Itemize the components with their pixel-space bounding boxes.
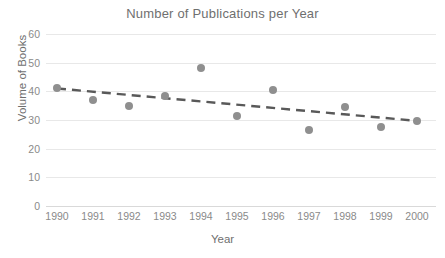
data-point[interactable] <box>89 96 97 104</box>
y-axis-tick-label: 10 <box>6 171 40 183</box>
chart-title: Number of Publications per Year <box>0 6 445 21</box>
x-axis-tick-label: 1990 <box>45 210 68 222</box>
x-axis-tick-labels: 1990199119921993199419951996199719981999… <box>0 210 445 228</box>
data-point[interactable] <box>269 86 277 94</box>
y-axis-title: Volume of Books <box>16 18 28 138</box>
plot-area <box>46 34 436 206</box>
data-point[interactable] <box>377 123 385 131</box>
x-axis-tick-label: 1992 <box>117 210 140 222</box>
x-axis-baseline <box>46 206 436 207</box>
data-point[interactable] <box>53 84 61 92</box>
y-axis-tick-label: 20 <box>6 143 40 155</box>
chart-container: Number of Publications per Year 60504030… <box>0 0 445 258</box>
x-axis-tick-label: 1998 <box>333 210 356 222</box>
data-point[interactable] <box>305 126 313 134</box>
x-axis-tick-label: 1999 <box>369 210 392 222</box>
x-axis-tick-label: 1995 <box>225 210 248 222</box>
x-axis-tick-label: 2000 <box>405 210 428 222</box>
x-axis-tick-label: 1996 <box>261 210 284 222</box>
data-point[interactable] <box>197 64 205 72</box>
x-axis-tick-label: 1994 <box>189 210 212 222</box>
x-axis-tick-label: 1991 <box>81 210 104 222</box>
x-axis-tick-label: 1993 <box>153 210 176 222</box>
x-axis-tick-label: 1997 <box>297 210 320 222</box>
x-axis-title: Year <box>0 233 445 245</box>
trendline <box>46 34 436 206</box>
data-point[interactable] <box>161 92 169 100</box>
data-point[interactable] <box>413 117 421 125</box>
data-point[interactable] <box>125 102 133 110</box>
data-point[interactable] <box>233 112 241 120</box>
data-point[interactable] <box>341 103 349 111</box>
